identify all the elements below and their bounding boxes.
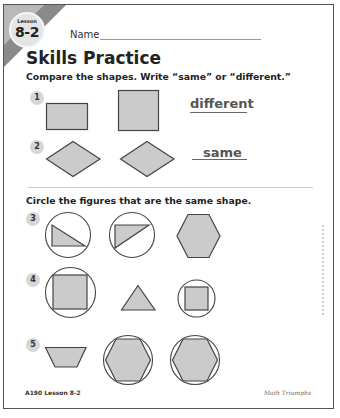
- trapezoid-shape: [45, 347, 90, 371]
- worksheet-page: Lesson 8-2 Name Skills Practice Compare …: [3, 4, 334, 409]
- name-field-line[interactable]: [100, 39, 261, 40]
- circled-right-triangle: [45, 212, 93, 260]
- lesson-number: 8-2: [11, 24, 43, 40]
- circled-hexagon: [170, 335, 224, 389]
- answer-line-2: [192, 159, 247, 160]
- answer-2: same: [203, 145, 242, 160]
- answer-1: different: [190, 96, 254, 111]
- triangle-shape: [121, 285, 161, 315]
- circled-square: [178, 280, 218, 320]
- item-number-1: 1: [30, 91, 44, 105]
- section-divider: [28, 187, 313, 188]
- item-number-5: 5: [26, 338, 40, 352]
- rhombus-shape: [46, 141, 106, 181]
- circled-hexagon: [103, 335, 157, 389]
- item-number-4: 4: [26, 273, 40, 287]
- square-shape: [118, 90, 163, 135]
- copyright-vertical-text: [322, 225, 330, 315]
- item-number-2: 2: [30, 140, 44, 154]
- footer-series: Math Triumphs: [264, 389, 311, 396]
- item-number-3: 3: [26, 212, 40, 226]
- circled-square: [45, 267, 99, 321]
- lesson-badge: Lesson 8-2: [9, 12, 45, 48]
- hexagon-shape: [176, 214, 224, 260]
- section2-instruction: Circle the figures that are the same sha…: [26, 195, 251, 206]
- page-title: Skills Practice: [26, 48, 161, 68]
- rhombus-shape: [120, 141, 180, 181]
- circled-right-triangle: [109, 212, 157, 260]
- answer-line-1: [190, 112, 247, 113]
- name-label: Name: [70, 29, 100, 40]
- rectangle-shape: [46, 103, 91, 133]
- footer-page-ref: A190 Lesson 8-2: [25, 389, 81, 396]
- section1-instruction: Compare the shapes. Write “same” or “dif…: [26, 71, 291, 82]
